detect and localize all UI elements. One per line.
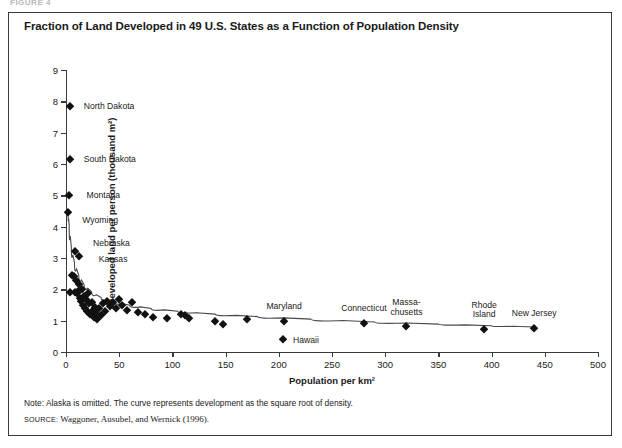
y-tick [61,321,66,322]
y-tick-label: 4 [53,221,58,232]
x-tick [332,352,333,357]
x-tick-label: 100 [164,359,180,370]
x-tick [492,352,493,357]
y-tick-label: 0 [53,347,58,358]
x-tick-label: 250 [324,359,340,370]
data-point-label: South Dakota [84,155,136,165]
x-tick-label: 0 [63,359,68,370]
x-tick [119,352,120,357]
data-point-label: New Jersey [512,309,557,319]
figure-number-sliver: FIGURE 4 [10,0,130,6]
data-point-label: Kansas [99,255,128,265]
data-point-label: Montana [87,191,120,201]
data-point-label: Hawaii [293,336,319,346]
y-tick [61,164,66,165]
y-tick [61,70,66,71]
x-tick [545,352,546,357]
x-tick-label: 200 [271,359,287,370]
y-tick [61,289,66,290]
data-point-label: Massa-chusetts [390,298,422,317]
y-tick-label: 5 [53,190,58,201]
x-tick-label: 300 [377,359,393,370]
y-tick [61,133,66,134]
figure-page: FIGURE 4 Fraction of Land Developed in 4… [0,0,622,448]
data-point-label: Nebraska [93,239,130,249]
source-text: Waggoner, Ausubel, and Wernick (1996). [60,414,209,424]
y-tick-label: 2 [53,284,58,295]
x-tick-label: 450 [537,359,553,370]
source-label: SOURCE: [24,415,58,424]
y-tick-label: 6 [53,159,58,170]
data-point-label: Wyoming [82,216,118,226]
x-tick-label: 50 [114,359,125,370]
x-tick [438,352,439,357]
x-tick-label: 500 [590,359,606,370]
data-point-label: Maryland [266,302,301,312]
x-tick [598,352,599,357]
x-tick [172,352,173,357]
data-point-label: RhodeIsland [471,301,496,320]
x-tick [226,352,227,357]
x-tick-label: 350 [430,359,446,370]
y-tick-label: 8 [53,96,58,107]
x-tick [385,352,386,357]
x-tick [279,352,280,357]
x-tick-label: 400 [484,359,500,370]
y-tick [61,101,66,102]
x-tick-label: 150 [218,359,234,370]
y-tick-label: 1 [53,315,58,326]
figure-source: SOURCE: Waggoner, Ausubel, and Wernick (… [24,414,209,424]
y-tick [61,227,66,228]
y-tick-label: 3 [53,253,58,264]
y-tick-label: 9 [53,65,58,76]
plot-area: 0123456789050100150200250300350400450500… [66,70,598,352]
data-point-label: Connecticut [341,304,386,314]
y-tick-label: 7 [53,127,58,138]
x-axis-title: Population per km² [66,375,598,386]
chart-title: Fraction of Land Developed in 49 U.S. St… [24,20,459,32]
x-tick [66,352,67,357]
figure-note: Note: Alaska is omitted. The curve repre… [24,398,353,408]
y-tick [61,258,66,259]
data-point-label: North Dakota [84,102,135,112]
